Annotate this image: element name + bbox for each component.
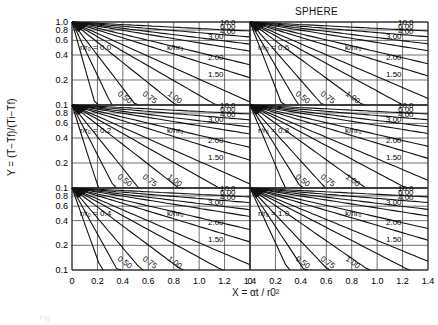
curve-label: 1.50 xyxy=(208,153,224,162)
curve-label: 0.50 xyxy=(116,89,134,106)
x-tick-label: 1.2 xyxy=(396,276,409,286)
curve-label: 3.00 xyxy=(386,115,402,124)
curve-label: 1.50 xyxy=(386,235,402,244)
curve-label: 1.00 xyxy=(344,172,362,189)
y-tick-label: 0.6 xyxy=(55,118,68,128)
curve-k-0.25 xyxy=(250,188,330,270)
k-hr0-label: k/hr₀ xyxy=(167,209,184,218)
y-tick-label: 0.2 xyxy=(55,240,68,250)
y-tick-label: 0.1 xyxy=(55,265,68,275)
y-tick-label: 0.6 xyxy=(55,35,68,45)
k-hr0-label: k/hr₀ xyxy=(345,209,362,218)
r-over-r0-label: r/r₀ = 0.8 xyxy=(258,126,290,135)
y-tick-label: 0.8 xyxy=(55,191,68,201)
curve-label: 1.50 xyxy=(208,235,224,244)
x-tick-label: 1.4 xyxy=(422,276,435,286)
curve-label: 2.00 xyxy=(208,218,224,227)
y-tick-label: 0.4 xyxy=(55,50,68,60)
y-tick-label: 0.2 xyxy=(55,75,68,85)
x-tick-label: 1.0 xyxy=(371,276,384,286)
x-tick-label: 0.2 xyxy=(91,276,104,286)
chart-plot-area: r/r₀ = 0.0k/hr₀10.06.004.003.002.001.500… xyxy=(0,0,438,325)
curve-k-0.25 xyxy=(250,105,326,188)
curve-k-0 xyxy=(250,188,290,270)
curve-k-0.25 xyxy=(72,188,143,270)
curve-label: 1.00 xyxy=(344,89,362,106)
curve-label: 3.00 xyxy=(208,32,224,41)
y-tick-label: 0.8 xyxy=(55,25,68,35)
r-over-r0-label: r/r₀ = 0.4 xyxy=(80,209,112,218)
curve-k-0.10 xyxy=(250,105,303,188)
panel-r-0.2: r/r₀ = 0.2k/hr₀10.06.004.003.002.001.500… xyxy=(72,101,250,189)
x-tick-label: 0.6 xyxy=(320,276,333,286)
panel-r-1.0: r/r₀ = 1.0k/hr₀10.06.004.003.002.001.500… xyxy=(250,184,428,271)
curve-label: 2.00 xyxy=(386,136,402,145)
curve-label: 1.50 xyxy=(386,70,402,79)
curve-label: 2.00 xyxy=(386,218,402,227)
r-over-r0-label: r/r₀ = 1.0 xyxy=(258,209,290,218)
r-over-r0-label: r/r₀ = 0.6 xyxy=(258,43,290,52)
k-hr0-label: k/hr₀ xyxy=(345,126,362,135)
k-hr0-label: k/hr₀ xyxy=(345,43,362,52)
y-tick-label: 0.8 xyxy=(55,108,68,118)
curve-label: 1.00 xyxy=(166,254,184,271)
curve-label: 0.50 xyxy=(294,89,312,106)
x-tick-label: 0.8 xyxy=(345,276,358,286)
curve-label: 0.50 xyxy=(116,254,134,271)
curve-k-0.25 xyxy=(250,22,326,105)
x-tick-label: 1.0 xyxy=(193,276,206,286)
curve-label: 3.00 xyxy=(386,198,402,207)
curve-label: 0.75 xyxy=(141,172,159,189)
curve-label: 3.00 xyxy=(386,32,402,41)
curve-label: 1.50 xyxy=(208,70,224,79)
y-tick-label: 0.2 xyxy=(55,158,68,168)
x-tick-label: 0.4 xyxy=(117,276,130,286)
r-over-r0-label: r/r₀ = 0.0 xyxy=(80,43,112,52)
x-tick-label: 1.2 xyxy=(218,276,231,286)
x-tick-label: 0 xyxy=(247,276,252,286)
curve-label: 0.75 xyxy=(141,254,159,271)
x-tick-label: 0.8 xyxy=(167,276,180,286)
curve-label: 0.50 xyxy=(116,172,134,189)
curve-label: 0.75 xyxy=(141,89,159,106)
panel-r-0.0: r/r₀ = 0.0k/hr₀10.06.004.003.002.001.500… xyxy=(72,18,250,106)
curve-label: 1.50 xyxy=(386,153,402,162)
k-hr0-label: k/hr₀ xyxy=(167,43,184,52)
y-tick-label: 0.4 xyxy=(55,216,68,226)
curve-label: 3.00 xyxy=(208,115,224,124)
panel-r-0.6: r/r₀ = 0.6k/hr₀10.06.004.003.002.001.500… xyxy=(250,18,428,106)
k-hr0-label: k/hr₀ xyxy=(167,126,184,135)
curve-label: 2.00 xyxy=(386,53,402,62)
x-tick-label: 0.6 xyxy=(142,276,155,286)
x-tick-label: 0.4 xyxy=(295,276,308,286)
curve-label: 0.75 xyxy=(319,172,337,189)
curve-label: 0.50 xyxy=(294,172,312,189)
panel-r-0.8: r/r₀ = 0.8k/hr₀10.06.004.003.002.001.500… xyxy=(250,101,428,189)
panel-r-0.4: r/r₀ = 0.4k/hr₀10.06.004.003.002.001.500… xyxy=(72,184,250,271)
curve-label: 1.00 xyxy=(166,172,184,189)
curve-label: 1.00 xyxy=(344,254,362,271)
curve-label: 2.00 xyxy=(208,136,224,145)
y-tick-label: 0.4 xyxy=(55,133,68,143)
curve-label: 2.00 xyxy=(208,53,224,62)
x-tick-label: 0.2 xyxy=(269,276,282,286)
curve-label: 3.00 xyxy=(208,198,224,207)
x-tick-label: 0 xyxy=(69,276,74,286)
r-over-r0-label: r/r₀ = 0.2 xyxy=(80,126,112,135)
y-tick-label: 0.6 xyxy=(55,201,68,211)
curve-k-0.25 xyxy=(72,105,139,188)
